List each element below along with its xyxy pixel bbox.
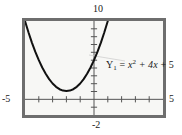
parabola-curve [25, 21, 108, 91]
x-max-label: 5 [169, 94, 174, 104]
equation-term2: + 4x [139, 59, 158, 70]
equation-term1-exponent: 2 [132, 58, 136, 66]
y-max-label: 10 [93, 4, 103, 14]
equation-equals: = [120, 59, 126, 70]
equation-subscript: 1 [113, 64, 117, 72]
y-min-label: -2 [92, 120, 100, 130]
equation-annotation: Y1 = x2 + 4x + 5 [106, 59, 174, 72]
x-min-label: -5 [2, 94, 10, 104]
equation-term3: + 5 [160, 59, 173, 70]
graph-figure: 10 -5 5 -2 [0, 0, 182, 135]
